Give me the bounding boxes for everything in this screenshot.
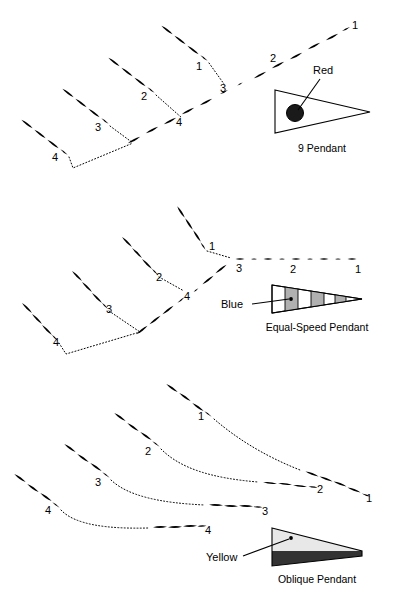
track-number-label: 2 — [290, 263, 296, 275]
track-number-label: 2 — [317, 483, 323, 495]
track-number-label: 3 — [220, 82, 226, 94]
figure-background — [0, 0, 393, 610]
track-number-label: 1 — [352, 19, 358, 31]
color-label-yellow: Yellow — [206, 551, 237, 563]
track-number-label: 2 — [156, 271, 162, 283]
caption-equal-speed-pendant: Equal-Speed Pendant — [266, 321, 369, 333]
track-number-label: 4 — [176, 116, 182, 128]
color-label-blue: Blue — [221, 298, 243, 310]
caption-9-pendant: 9 Pendant — [298, 142, 346, 154]
track-number-label: 3 — [95, 121, 101, 133]
track-number-label: 1 — [366, 492, 372, 504]
pendant-track-figure: Red 9 Pendant — [0, 0, 393, 610]
track-number-label: 1 — [196, 60, 202, 72]
color-label-red: Red — [313, 64, 333, 76]
track-number-label: 3 — [95, 476, 101, 488]
track-number-label: 3 — [262, 505, 268, 517]
track-horizontal — [236, 258, 357, 259]
track-number-label: 3 — [106, 303, 112, 315]
track-number-label: 4 — [52, 151, 58, 163]
track-number-label: 4 — [205, 524, 211, 536]
track-number-label: 4 — [45, 504, 51, 516]
track-number-label: 1 — [198, 410, 204, 422]
track-number-label: 2 — [145, 445, 151, 457]
caption-oblique-pendant: Oblique Pendant — [278, 573, 356, 585]
track-number-label: 2 — [270, 52, 276, 64]
track-number-label: 4 — [184, 290, 190, 302]
track-number-label: 3 — [236, 262, 242, 274]
track-number-label: 2 — [141, 90, 147, 102]
track-number-label: 4 — [53, 336, 59, 348]
track-number-label: 1 — [355, 263, 361, 275]
track-number-label: 1 — [209, 240, 215, 252]
